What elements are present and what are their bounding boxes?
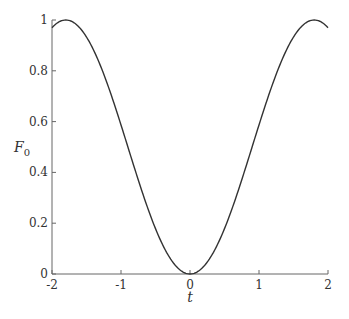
tick-labels: -2-101200.20.40.60.81 (29, 13, 332, 292)
axes (52, 20, 328, 274)
y-tick-label: 0 (40, 267, 48, 281)
y-tick-label: 0.2 (29, 216, 48, 230)
y-tick-label: 0.8 (29, 64, 48, 78)
y-axis-label: F0 (13, 139, 30, 158)
x-tick-label: 2 (324, 278, 332, 292)
x-axis-label: t (187, 289, 193, 305)
line-chart: -2-101200.20.40.60.81 t F0 (0, 0, 349, 319)
x-tick-label: 1 (255, 278, 263, 292)
y-tick-label: 1 (40, 13, 48, 27)
y-tick-label: 0.4 (29, 165, 48, 179)
x-tick-label: -1 (115, 278, 127, 292)
data-line (52, 20, 328, 274)
y-tick-label: 0.6 (29, 115, 48, 129)
